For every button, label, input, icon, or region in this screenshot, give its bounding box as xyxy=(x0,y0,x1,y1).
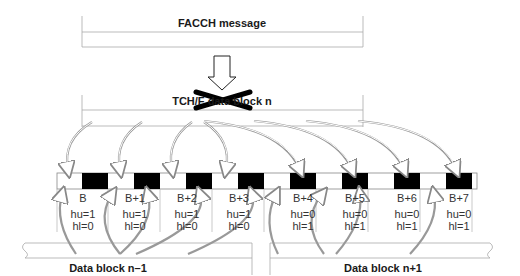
hl-value: hl=0 xyxy=(213,220,265,232)
burst-label: B+1 xyxy=(109,192,161,204)
burst-cell-2: B+2 hu=1 hl=0 xyxy=(161,192,213,232)
hl-value: hl=1 xyxy=(329,220,381,232)
burst-label: B+7 xyxy=(433,192,485,204)
hl-value: hl=0 xyxy=(161,220,213,232)
hu-value: hu=0 xyxy=(277,208,329,220)
diagram-canvas xyxy=(0,0,520,276)
hu-value: hu=0 xyxy=(381,208,433,220)
hl-value: hl=1 xyxy=(381,220,433,232)
data-block-n-plus-1-label: Data block n+1 xyxy=(344,262,422,274)
hl-value: hl=1 xyxy=(433,220,485,232)
burst-cell-4: B+4 hu=0 hl=1 xyxy=(277,192,329,232)
burst-label: B+2 xyxy=(161,192,213,204)
burst-cell-3: B+3 hu=1 hl=0 xyxy=(213,192,265,232)
hl-value: hl=0 xyxy=(57,220,109,232)
hl-value: hl=1 xyxy=(277,220,329,232)
hl-value: hl=0 xyxy=(109,220,161,232)
burst-cell-1: B+1 hu=1 hl=0 xyxy=(109,192,161,232)
burst-label: B+4 xyxy=(277,192,329,204)
burst-cell-6: B+6 hu=0 hl=1 xyxy=(381,192,433,232)
tch-block-label: TCH/F data block n xyxy=(172,95,272,107)
burst-label: B+3 xyxy=(213,192,265,204)
data-block-n-minus-1-label: Data block n–1 xyxy=(69,262,147,274)
burst-label: B xyxy=(57,192,109,204)
hu-value: hu=1 xyxy=(57,208,109,220)
hu-value: hu=1 xyxy=(161,208,213,220)
hu-value: hu=0 xyxy=(433,208,485,220)
hu-value: hu=1 xyxy=(213,208,265,220)
burst-cell-5: B+5 hu=0 hl=1 xyxy=(329,192,381,232)
burst-cell-7: B+7 hu=0 hl=1 xyxy=(433,192,485,232)
down-arrow-icon xyxy=(208,56,236,90)
top-arrows xyxy=(67,121,456,170)
burst-label: B+6 xyxy=(381,192,433,204)
facch-message-label: FACCH message xyxy=(178,17,266,29)
burst-cell-0: B hu=1 hl=0 xyxy=(57,192,109,232)
burst-label: B+5 xyxy=(329,192,381,204)
hu-value: hu=1 xyxy=(109,208,161,220)
hu-value: hu=0 xyxy=(329,208,381,220)
